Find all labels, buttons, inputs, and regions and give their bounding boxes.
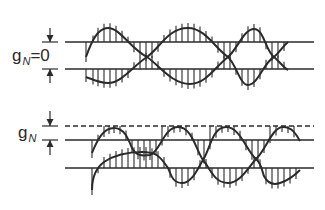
bottom-arrow-up-icon bbox=[47, 140, 54, 147]
label-gn-zero: gN=0 bbox=[12, 47, 50, 64]
top-arrow-down-icon bbox=[47, 35, 54, 42]
waveform-diagram bbox=[0, 0, 325, 210]
bottom-lower-waveform bbox=[92, 152, 300, 190]
top-arrow-up-icon bbox=[47, 69, 54, 76]
label-gn: gN bbox=[18, 124, 36, 141]
label-gn-main: g bbox=[18, 123, 27, 142]
bottom-upper-waveform bbox=[92, 127, 300, 160]
bottom-arrow-down-icon bbox=[47, 119, 54, 126]
label-gn-zero-suffix: =0 bbox=[30, 46, 49, 65]
label-gn-sub: N bbox=[28, 132, 36, 144]
label-gn-zero-sub: N bbox=[22, 55, 30, 67]
label-gn-zero-main: g bbox=[12, 46, 21, 65]
